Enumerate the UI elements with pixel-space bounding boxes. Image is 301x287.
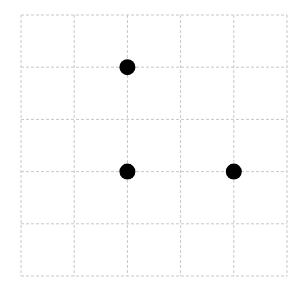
grid-point	[119, 59, 135, 75]
grid-point	[119, 164, 135, 180]
grid-point	[226, 164, 242, 180]
dot-grid-board	[0, 0, 301, 287]
